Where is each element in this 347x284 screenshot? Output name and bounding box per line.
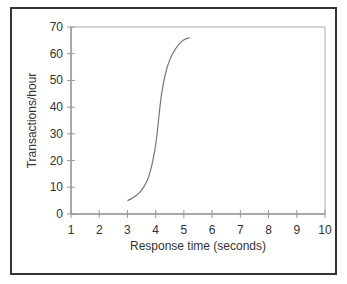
- y-tick-label: 10: [50, 180, 64, 194]
- x-tick-label: 9: [293, 223, 300, 237]
- y-tick-label: 50: [50, 73, 64, 87]
- x-tick-label: 2: [96, 223, 103, 237]
- x-axis-label: Response time (seconds): [130, 239, 266, 253]
- x-tick-label: 1: [68, 223, 75, 237]
- y-tick-label: 20: [50, 154, 64, 168]
- x-tick-label: 10: [318, 223, 332, 237]
- y-tick-label: 0: [56, 207, 63, 221]
- x-tick-label: 3: [124, 223, 131, 237]
- y-tick-label: 30: [50, 127, 64, 141]
- data-curve: [127, 38, 189, 201]
- x-tick-label: 4: [152, 223, 159, 237]
- y-axis-label: Transactions/hour: [25, 73, 39, 169]
- s-curve-chart: 01020304050607012345678910Response time …: [0, 0, 347, 284]
- x-tick-label: 7: [237, 223, 244, 237]
- x-tick-label: 5: [181, 223, 188, 237]
- x-tick-label: 6: [209, 223, 216, 237]
- y-tick-label: 70: [50, 20, 64, 34]
- y-tick-label: 60: [50, 47, 64, 61]
- y-tick-label: 40: [50, 100, 64, 114]
- x-tick-label: 8: [265, 223, 272, 237]
- plot-area: [71, 27, 325, 214]
